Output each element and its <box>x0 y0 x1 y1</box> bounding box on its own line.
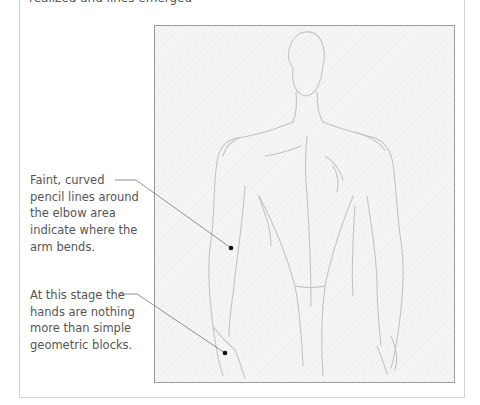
callout-dot-hands <box>223 351 228 356</box>
leader-line-elbow <box>115 180 231 248</box>
callout-dot-elbow <box>229 246 234 251</box>
leader-line-hands <box>120 294 225 353</box>
callout-leaders <box>0 0 480 405</box>
